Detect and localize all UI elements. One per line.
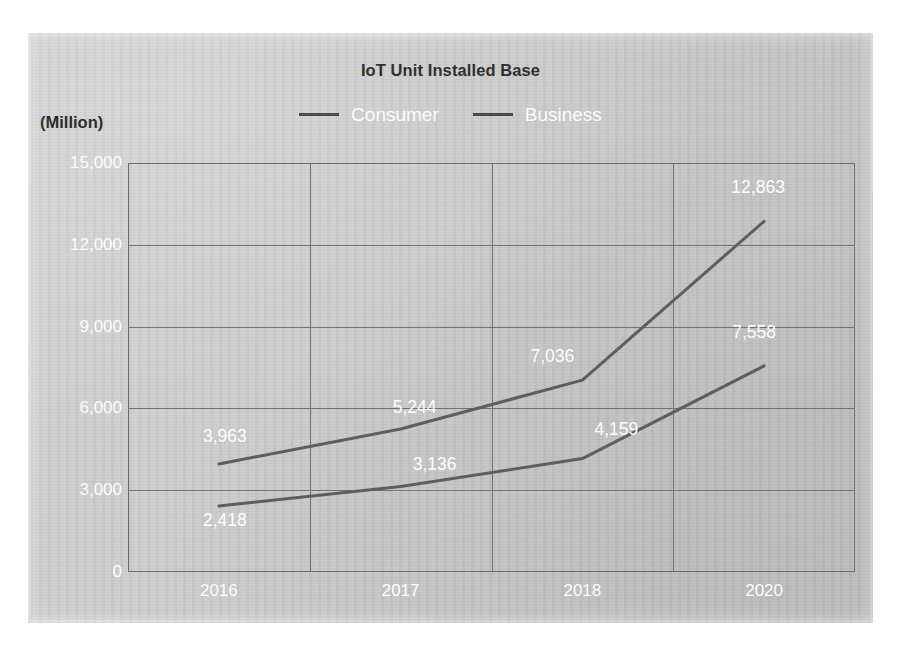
legend-label-business: Business [525, 105, 602, 124]
line-swatch-icon [473, 113, 513, 116]
y-axis-tick-label: 6,000 [30, 398, 122, 418]
y-axis-tick-labels: 03,0006,0009,00012,00015,000 [28, 163, 122, 572]
series-lines [128, 163, 855, 572]
x-axis-tick-label: 2017 [382, 581, 420, 601]
series-line-consumer [219, 221, 764, 464]
legend-label-consumer: Consumer [351, 105, 439, 124]
x-axis-tick-label: 2018 [563, 581, 601, 601]
y-axis-tick-label: 3,000 [30, 480, 122, 500]
legend-item-consumer[interactable]: Consumer [299, 105, 439, 124]
chart-title: IoT Unit Installed Base [28, 61, 873, 80]
legend-item-business[interactable]: Business [473, 105, 602, 124]
y-axis-tick-label: 9,000 [30, 317, 122, 337]
y-axis-tick-label: 15,000 [30, 153, 122, 173]
scanned-chart-panel: IoT Unit Installed Base (Million) Consum… [28, 33, 873, 623]
x-axis-tick-label: 2016 [200, 581, 238, 601]
y-axis-tick-label: 12,000 [30, 235, 122, 255]
series-line-business [219, 366, 764, 506]
chart-legend: Consumer Business [28, 105, 873, 124]
line-swatch-icon [299, 113, 339, 116]
x-axis-tick-label: 2020 [745, 581, 783, 601]
x-axis-tick-labels: 2016201720182020 [128, 581, 855, 609]
chart-screenshot: IoT Unit Installed Base (Million) Consum… [0, 0, 901, 653]
y-axis-tick-label: 0 [30, 562, 122, 582]
